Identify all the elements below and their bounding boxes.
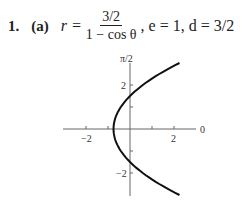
x-tick-label-2: 2 xyxy=(171,133,176,144)
vertical-axis-label: π/2 xyxy=(120,53,133,64)
polar-graph: −2 2 0 π/2 2 −2 xyxy=(0,0,246,212)
polar-axis-label: 0 xyxy=(200,124,205,135)
y-tick-label-neg2: −2 xyxy=(116,168,127,179)
y-tick-label-2: 2 xyxy=(121,80,126,91)
x-tick-label-neg2: −2 xyxy=(81,133,92,144)
